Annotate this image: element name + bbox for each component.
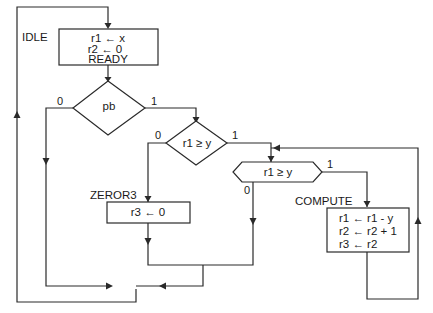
idle-state-label: IDLE	[22, 31, 48, 43]
decision-cmp2: r1 ≥ y 0 1	[233, 158, 333, 196]
compute-line-3: r3 ← r2	[339, 238, 377, 250]
arrowhead-pb-false-down	[43, 158, 50, 165]
state-compute: COMPUTE r1 ← r1 - y r2 ← r2 + 1 r3 ← r2	[295, 195, 409, 252]
arrowhead-up-left-loop	[14, 111, 21, 118]
arrowhead-into-cmp2	[268, 156, 275, 162]
state-idle: IDLE r1 ← x r2 ← 0 READY	[22, 29, 158, 65]
arrowhead-into-zeror3	[145, 196, 152, 202]
pb-false-label: 0	[57, 95, 63, 107]
cmp2-condition: r1 ≥ y	[264, 166, 293, 178]
arrowhead-loop-left	[273, 145, 280, 152]
asm-flowchart: IDLE r1 ← x r2 ← 0 READY pb 0 1 r1 ≥ y 0…	[0, 0, 433, 313]
cmp1-condition: r1 ≥ y	[183, 137, 212, 149]
compute-line-1: r1 ← r1 - y	[339, 212, 394, 224]
zeror3-line-1: r3 ← 0	[131, 206, 166, 218]
arrowhead-loop-up	[415, 217, 422, 224]
compute-state-label: COMPUTE	[295, 195, 353, 207]
cmp2-false-label: 0	[244, 184, 250, 196]
pb-condition: pb	[103, 100, 116, 112]
decision-cmp1: r1 ≥ y 0 1	[155, 121, 238, 165]
arrowhead-into-compute	[364, 201, 371, 207]
arrowhead-into-idle	[105, 23, 112, 29]
zeror3-state-label: ZEROR3	[90, 189, 137, 201]
arrowhead-merge-right	[159, 283, 166, 290]
idle-line-3: READY	[88, 53, 128, 65]
cmp1-true-label: 1	[232, 129, 238, 141]
pb-true-label: 1	[151, 95, 157, 107]
arrowhead-zeror3-down	[145, 238, 152, 245]
edge-cmp1-false	[148, 143, 166, 202]
cmp1-false-label: 0	[155, 129, 161, 141]
state-zeror3: ZEROR3 r3 ← 0	[90, 189, 190, 223]
edge-merge-to-loop	[136, 265, 203, 286]
compute-line-2: r2 ← r2 + 1	[339, 225, 397, 237]
edge-cmp1-true	[227, 143, 271, 162]
edge-pb-true	[145, 108, 196, 120]
cmp2-true-label: 1	[327, 158, 333, 170]
arrowhead-merge-left	[106, 283, 113, 290]
arrowhead-cmp2-false-down	[250, 218, 257, 225]
